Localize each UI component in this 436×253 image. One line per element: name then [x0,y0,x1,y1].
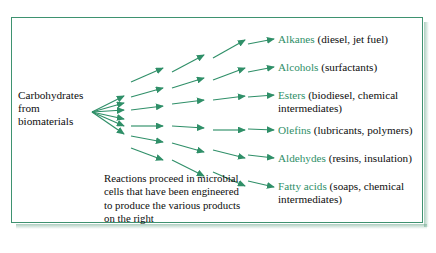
product-name: Fatty acids [278,180,327,192]
product-detail: (biodiesel, chemical [305,89,398,101]
source-label: Carbohydratesfrombiomaterials [18,89,83,129]
product-label-aldehydes: Aldehydes (resins, insulation) [278,152,412,165]
product-label-alcohols: Alcohols (surfactants) [278,61,377,74]
source-line-2: from [18,102,40,114]
product-name: Aldehydes [278,152,326,164]
product-detail: (surfactants) [318,61,377,73]
product-detail-line2: intermediates) [278,193,342,205]
caption-line-2: cells that have been engineered [104,185,239,197]
source-line-3: biomaterials [18,115,73,127]
product-name: Alkanes [278,33,315,45]
product-label-olefins: Olefins (lubricants, polymers) [278,124,413,137]
product-detail: (resins, insulation) [326,152,412,164]
product-detail-line2: intermediates) [278,102,342,114]
caption-line-3: to produce the various products [104,199,240,211]
product-detail: (soaps, chemical [327,180,404,192]
caption-block: Reactions proceed in microbialcells that… [104,172,240,226]
diagram-canvas: Carbohydratesfrombiomaterials Reactions … [0,0,436,253]
product-name: Olefins [278,124,311,136]
product-detail: (lubricants, polymers) [311,124,413,136]
product-label-fatty-acids: Fatty acids (soaps, chemical intermediat… [278,180,404,206]
product-name: Alcohols [278,61,318,73]
product-label-esters: Esters (biodiesel, chemical intermediate… [278,89,398,115]
caption-line-1: Reactions proceed in microbial [104,172,239,184]
caption-line-4: on the right [104,212,154,224]
product-label-alkanes: Alkanes (diesel, jet fuel) [278,33,388,46]
product-name: Esters [278,89,305,101]
product-detail: (diesel, jet fuel) [315,33,388,45]
source-line-1: Carbohydrates [18,89,83,101]
